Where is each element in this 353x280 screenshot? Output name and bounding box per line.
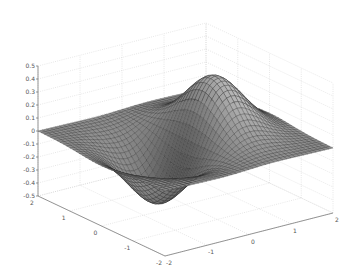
x-tick-label: 2 [335,216,339,223]
surface-plot: -0.5-0.4-0.3-0.2-0.100.10.20.30.40.5-2-1… [0,0,353,280]
x-tick-label: -1 [208,248,214,255]
surface-mesh [38,75,333,204]
z-tick-label: 0.3 [25,88,35,95]
z-tick-label: -0.2 [23,153,35,160]
z-tick-label: -0.5 [23,192,35,199]
y-axis-line [38,196,165,256]
z-tick-label: 0.5 [25,62,35,69]
y-gridline [102,183,270,226]
x-tick-label: 1 [293,227,297,234]
z-tick-label: 0.2 [25,101,35,108]
z-tick-label: 0 [31,127,35,134]
x-axis-line [165,213,333,256]
z-tick-label: -0.3 [23,166,35,173]
y-tick-label: 0 [94,229,98,236]
y-tick-label: 1 [62,214,66,221]
z-tick-label: -0.4 [23,179,35,186]
z-tick-label: 0.1 [25,114,35,121]
z-tick-label: 0.4 [25,75,35,82]
y-tick-label: 2 [30,199,34,206]
y-tick-label: -1 [124,244,130,251]
x-tick-label: 0 [251,238,255,245]
z-tick-label: -0.1 [23,140,35,147]
y-gridline [133,198,301,241]
y-tick-label: -2 [156,259,162,266]
x-tick-label: -2 [166,259,172,266]
